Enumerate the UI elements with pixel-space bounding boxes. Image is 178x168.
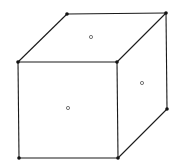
cube-edge (118, 109, 167, 158)
cube-edge (18, 14, 67, 62)
vertex-dot-front-bottom-left (17, 156, 21, 160)
vertex-dot-front-top-right (115, 60, 119, 64)
vertex-dot-front-top-left (16, 60, 20, 64)
face-marker-top (89, 35, 92, 38)
cube-edge (117, 62, 118, 158)
cube-edges (18, 13, 167, 158)
cube-edge (166, 13, 167, 109)
vertex-dot-back-top-right (164, 11, 168, 15)
face-marker-front (66, 106, 69, 109)
vertex-dot-back-top-left (65, 12, 69, 16)
face-marker-right (140, 81, 143, 84)
vertex-dot-back-bottom-right (165, 107, 169, 111)
cube-edge (117, 13, 166, 62)
vertex-dot-front-bottom-right (116, 156, 120, 160)
cube-diagram (0, 0, 178, 168)
cube-edge (18, 62, 19, 158)
cube-svg (0, 0, 178, 168)
cube-edge (67, 13, 166, 14)
